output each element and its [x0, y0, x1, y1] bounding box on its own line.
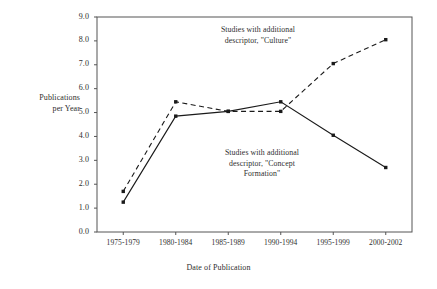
y-tick-label: 9.0	[55, 12, 89, 21]
y-tick-label: 7.0	[55, 59, 89, 68]
chart-figure: Publications per Year Date of Publicatio…	[0, 0, 437, 289]
annotation-culture: Studies with additional descriptor, "Cul…	[182, 25, 334, 46]
data-point-marker	[227, 110, 230, 113]
y-axis-title-line-1: Publications	[8, 93, 80, 104]
x-axis-title: Date of Publication	[0, 263, 437, 272]
annotation-concept-formation: Studies with additional descriptor, "Con…	[186, 148, 338, 180]
y-tick-label: 3.0	[55, 155, 89, 164]
data-point-marker	[384, 38, 387, 41]
axis-ticks	[94, 17, 386, 235]
annotation-culture-line-1: Studies with additional	[182, 25, 334, 36]
data-point-marker	[174, 100, 177, 103]
annotation-culture-line-2: descriptor, "Culture"	[182, 36, 334, 47]
y-tick-label: 6.0	[55, 83, 89, 92]
data-point-marker	[174, 114, 177, 117]
data-point-marker	[122, 200, 125, 203]
data-point-marker	[279, 110, 282, 113]
y-tick-label: 0.0	[55, 227, 89, 236]
x-tick-label: 2000-2002	[355, 238, 417, 247]
annotation-concept-line-3: Formation"	[186, 169, 338, 180]
y-tick-label: 4.0	[55, 131, 89, 140]
data-point-marker	[122, 190, 125, 193]
data-point-marker	[332, 134, 335, 137]
y-tick-label: 1.0	[55, 203, 89, 212]
data-point-marker	[384, 166, 387, 169]
data-point-marker	[279, 100, 282, 103]
annotation-concept-line-1: Studies with additional	[186, 148, 338, 159]
annotation-concept-line-2: descriptor, "Concept	[186, 159, 338, 170]
y-tick-label: 2.0	[55, 179, 89, 188]
y-tick-label: 8.0	[55, 35, 89, 44]
y-tick-label: 5.0	[55, 107, 89, 116]
data-point-marker	[332, 62, 335, 65]
